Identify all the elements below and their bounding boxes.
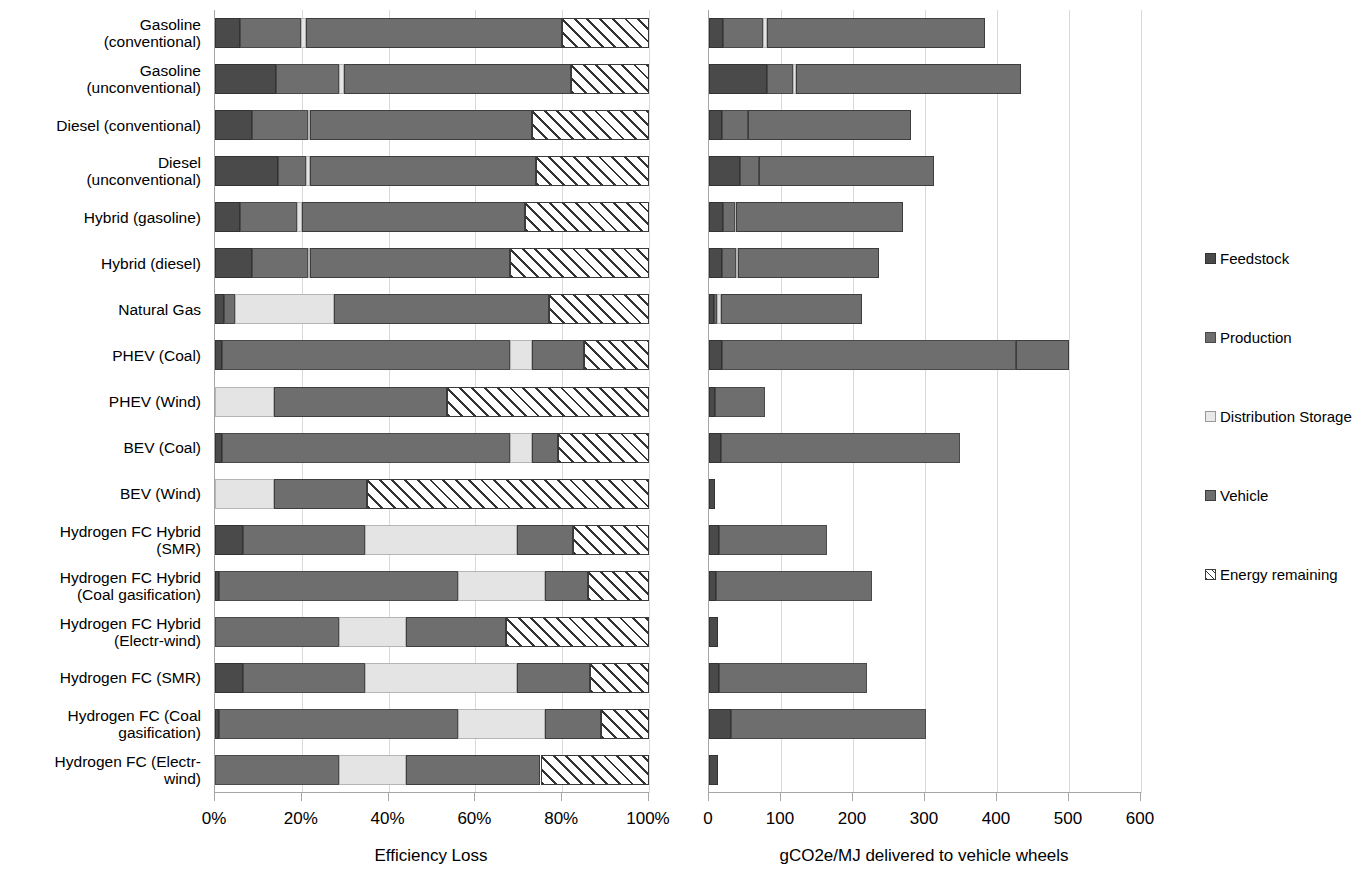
category-label: Gasoline(conventional) [0, 11, 201, 55]
bar-segment-vehicle [1016, 340, 1069, 370]
axis-tick [214, 793, 215, 801]
bar-segment-feedstock [709, 617, 718, 647]
bar-row [215, 294, 649, 324]
axis-tick-label: 200 [812, 809, 892, 829]
bar-segment-production [240, 202, 296, 232]
legend-label: Distribution Storage [1220, 408, 1352, 425]
axis-tick-label: 500 [1028, 809, 1108, 829]
legend-item-vehicle[interactable]: Vehicle [1205, 487, 1268, 504]
bar-segment-remaining [601, 709, 649, 739]
legend-label: Production [1220, 329, 1292, 346]
bar-segment-vehicle [517, 663, 591, 693]
bar-segment-production [715, 387, 765, 417]
bar-segment-feedstock [709, 479, 715, 509]
bar-segment-production [722, 110, 748, 140]
bar-segment-production [219, 709, 458, 739]
bar-segment-remaining [549, 294, 649, 324]
axis-tick-label: 600 [1100, 809, 1180, 829]
bar-segment-vehicle [274, 387, 448, 417]
category-label: Diesel(unconventional) [0, 149, 201, 193]
bar-segment-production [722, 340, 1016, 370]
bar-row [709, 755, 1141, 785]
bar-segment-production [276, 64, 339, 94]
bar-segment-production [767, 64, 793, 94]
bar-row [709, 340, 1141, 370]
bar-segment-vehicle [796, 64, 1021, 94]
gridline [1141, 10, 1142, 793]
bar-row [709, 202, 1141, 232]
bar-segment-storage [215, 387, 274, 417]
axis-tick [1140, 793, 1141, 801]
legend-item-storage[interactable]: Distribution Storage [1205, 408, 1352, 425]
legend-item-feedstock[interactable]: Feedstock [1205, 250, 1289, 267]
bar-row [709, 18, 1141, 48]
bar-segment-production [252, 110, 308, 140]
bar-segment-vehicle [545, 709, 601, 739]
bar-segment-remaining [367, 479, 649, 509]
bar-segment-production [716, 571, 872, 601]
bar-segment-storage [235, 294, 335, 324]
bar-segment-feedstock [709, 110, 722, 140]
legend-item-production[interactable]: Production [1205, 329, 1292, 346]
bar-segment-remaining [573, 525, 649, 555]
axis-tick [388, 793, 389, 801]
bar-row [215, 18, 649, 48]
category-label: Hydrogen FC Hybrid(Electr-wind) [0, 610, 201, 654]
bar-segment-vehicle [545, 571, 588, 601]
bar-segment-feedstock [709, 18, 723, 48]
axis-tick-label: 40% [348, 809, 428, 829]
bar-segment-vehicle [406, 617, 506, 647]
x-axis-title-efficiency: Efficiency Loss [214, 846, 648, 866]
bar-segment-feedstock [215, 248, 252, 278]
bar-row [215, 755, 649, 785]
axis-tick [708, 793, 709, 801]
bar-segment-production [222, 433, 511, 463]
bar-segment-vehicle [344, 64, 571, 94]
category-label: PHEV (Coal) [0, 333, 201, 377]
category-label: BEV (Coal) [0, 426, 201, 470]
bar-segment-feedstock [215, 663, 243, 693]
bar-segment-remaining [562, 18, 649, 48]
bar-segment-vehicle [406, 755, 541, 785]
bar-segment-feedstock [709, 64, 767, 94]
bar-segment-production [240, 18, 301, 48]
bar-segment-remaining [590, 663, 649, 693]
category-label: Hydrogen FC (SMR) [0, 656, 201, 700]
bar-row [709, 479, 1141, 509]
bar-segment-feedstock [709, 571, 716, 601]
bar-segment-vehicle [306, 18, 562, 48]
bar-row [215, 663, 649, 693]
bar-segment-storage [458, 709, 545, 739]
bar-segment-storage [510, 340, 532, 370]
panel-efficiency-loss [214, 10, 649, 793]
category-label: Hydrogen FC (Electr-wind) [0, 748, 201, 792]
bar-segment-production [215, 617, 339, 647]
bar-row [709, 709, 1141, 739]
legend-swatch-feedstock-icon [1205, 253, 1216, 264]
bar-segment-remaining [525, 202, 649, 232]
bar-segment-production [719, 525, 827, 555]
bar-segment-storage [339, 617, 406, 647]
bar-segment-feedstock [709, 709, 731, 739]
bar-row [709, 294, 1141, 324]
bar-row [709, 110, 1141, 140]
bar-segment-remaining [584, 340, 649, 370]
bar-segment-vehicle [334, 294, 549, 324]
axis-tick-label: 0% [174, 809, 254, 829]
bar-segment-production [721, 433, 961, 463]
bar-segment-vehicle [532, 340, 584, 370]
axis-tick-label: 80% [521, 809, 601, 829]
bar-segment-production [243, 663, 365, 693]
bar-segment-storage [365, 525, 517, 555]
bar-segment-storage [215, 479, 274, 509]
bar-segment-storage [458, 571, 545, 601]
bar-segment-production [731, 709, 926, 739]
axis-tick-label: 0 [668, 809, 748, 829]
legend-swatch-storage-icon [1205, 411, 1216, 422]
legend-item-remaining[interactable]: Energy remaining [1205, 566, 1338, 583]
bar-row [709, 156, 1141, 186]
bar-segment-production [723, 202, 735, 232]
axis-tick-label: 60% [434, 809, 514, 829]
bar-row [709, 248, 1141, 278]
axis-tick [852, 793, 853, 801]
